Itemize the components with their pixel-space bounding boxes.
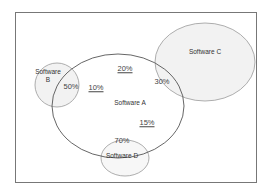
region-d-a-value: 70% [114, 137, 129, 145]
region-a-top-value: 20% [117, 65, 132, 73]
software-a-label: Software A [114, 100, 145, 107]
software-c-label: Software C [189, 49, 221, 56]
region-a-near-d-value: 15% [139, 119, 154, 127]
software-b-label-line1: Software [35, 69, 61, 76]
region-c-a-value: 30% [154, 78, 169, 86]
software-d-label: Software D [106, 153, 138, 160]
region-a-near-b-value: 10% [88, 84, 103, 92]
software-b-label-line2: B [35, 77, 61, 84]
region-b-a-value: 50% [63, 83, 78, 91]
software-c-ellipse [155, 23, 255, 101]
venn-diagram [0, 0, 270, 189]
software-b-label: Software B [35, 69, 61, 83]
